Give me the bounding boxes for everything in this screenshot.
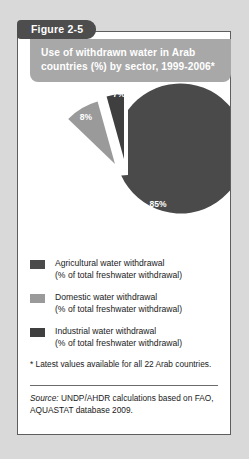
pie-slice-domestic [68,101,115,164]
pie-label-domestic: 8% [80,112,93,122]
pie-slice-agricultural [121,83,230,213]
legend-label-agricultural-line2: (% of total freshwater withdrawal) [55,270,182,282]
legend-label-domestic-line1: Domestic water withdrawal [55,292,157,302]
figure-source: Source: UNDP/AHDR calculations based on … [30,393,222,416]
legend-label-domestic-line2: (% of total freshwater withdrawal) [55,304,182,316]
pie-label-industrial: 7% [113,89,126,99]
legend-label-domestic: Domestic water withdrawal (% of total fr… [55,292,182,315]
legend-item-domestic: Domestic water withdrawal (% of total fr… [30,292,220,315]
legend-label-industrial: Industrial water withdrawal (% of total … [55,326,182,349]
chart-legend: Agricultural water withdrawal (% of tota… [30,258,220,360]
legend-swatch-agricultural [30,260,45,269]
figure-panel: Figure 2-5 Use of withdrawn water in Ara… [0,0,249,459]
legend-label-industrial-line2: (% of total freshwater withdrawal) [55,338,182,350]
legend-swatch-domestic [30,294,45,303]
pie-label-agricultural: 85% [149,199,166,209]
source-label: Source: [30,393,59,403]
figure-footnote: * Latest values available for all 22 Ara… [30,359,220,370]
legend-item-agricultural: Agricultural water withdrawal (% of tota… [30,258,220,281]
figure-title: Use of withdrawn water in Arab countries… [30,39,231,82]
legend-swatch-industrial [30,328,45,337]
legend-label-agricultural-line1: Agricultural water withdrawal [55,258,164,268]
legend-item-industrial: Industrial water withdrawal (% of total … [30,326,220,349]
legend-label-agricultural: Agricultural water withdrawal (% of tota… [55,258,182,281]
legend-label-industrial-line1: Industrial water withdrawal [55,326,156,336]
pie-slice-domestic-group [68,101,115,164]
source-divider [30,385,218,386]
figure-number-tab: Figure 2-5 [17,20,96,39]
